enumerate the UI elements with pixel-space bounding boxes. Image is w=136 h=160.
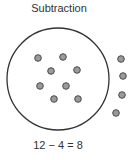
removed-dot <box>118 56 125 63</box>
remaining-dot <box>51 96 58 103</box>
removed-dot <box>120 73 127 80</box>
equation-label: 12 − 4 = 8 <box>0 139 116 151</box>
removed-dots-group <box>113 56 127 117</box>
remaining-dot <box>75 96 82 103</box>
remaining-dot <box>35 55 42 62</box>
removed-dot <box>113 110 120 117</box>
remaining-dot <box>74 67 81 74</box>
remaining-dot <box>63 83 70 90</box>
remaining-dot <box>60 54 67 61</box>
remaining-dot <box>37 83 44 90</box>
remaining-dot <box>48 68 55 75</box>
set-circle <box>7 28 109 130</box>
subtraction-diagram <box>0 0 136 160</box>
removed-dot <box>119 92 126 99</box>
remaining-dots-group <box>35 54 82 103</box>
